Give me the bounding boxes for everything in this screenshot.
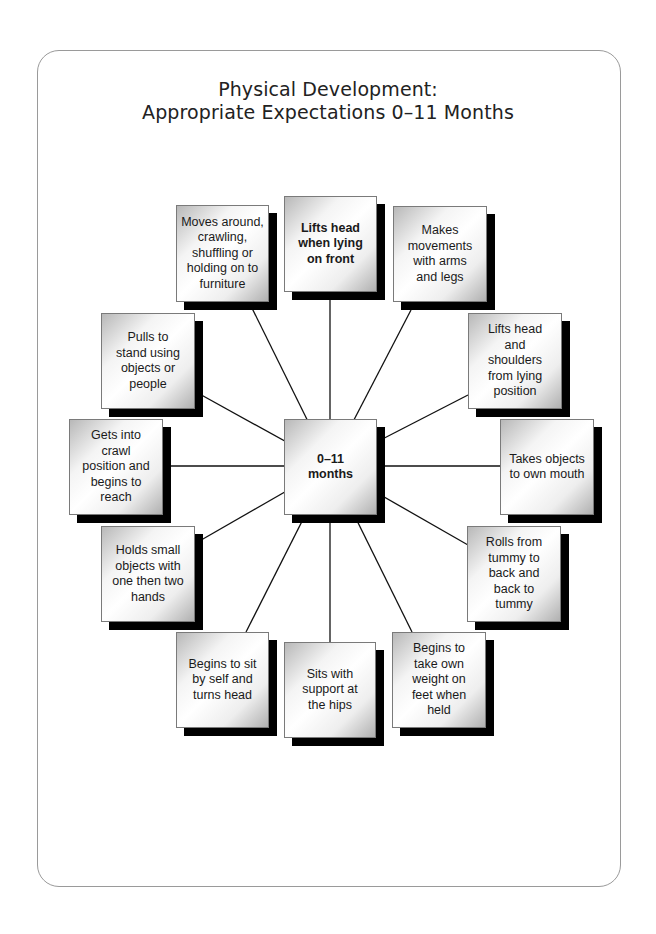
node-label: Gets into crawl position and begins to r… bbox=[79, 428, 153, 506]
node-moves-around: Moves around, crawling, shuffling or hol… bbox=[176, 205, 269, 302]
node-label: Pulls to stand using objects or people bbox=[111, 330, 185, 392]
node-rolls-tummy: Rolls from tummy to back and back to tum… bbox=[467, 526, 561, 622]
node-sit-by-self: Begins to sit by self and turns head bbox=[176, 632, 269, 728]
node-label: Moves around, crawling, shuffling or hol… bbox=[181, 215, 264, 293]
center-label: 0–11 months bbox=[301, 452, 361, 483]
node-lifts-head-front: Lifts head when lying on front bbox=[284, 196, 377, 292]
node-label: Takes objects to own mouth bbox=[507, 452, 587, 483]
node-lifts-head-shoulders: Lifts head and shoulders from lying posi… bbox=[468, 313, 562, 409]
node-label: Lifts head and shoulders from lying posi… bbox=[478, 322, 552, 400]
node-label: Begins to take own weight on feet when h… bbox=[403, 641, 475, 719]
node-makes-movements: Makes movements with arms and legs bbox=[393, 206, 487, 302]
node-label: Rolls from tummy to back and back to tum… bbox=[478, 535, 550, 613]
node-label: Lifts head when lying on front bbox=[289, 221, 372, 268]
node-label: Holds small objects with one then two ha… bbox=[109, 543, 187, 605]
node-label: Makes movements with arms and legs bbox=[404, 223, 476, 285]
node-label: Sits with support at the hips bbox=[294, 667, 366, 714]
node-takes-objects-mouth: Takes objects to own mouth bbox=[500, 419, 594, 515]
center-node: 0–11 months bbox=[284, 419, 377, 515]
node-pulls-to-stand: Pulls to stand using objects or people bbox=[101, 313, 195, 409]
node-sits-support: Sits with support at the hips bbox=[284, 642, 376, 738]
node-holds-objects: Holds small objects with one then two ha… bbox=[101, 526, 195, 622]
node-crawl-position: Gets into crawl position and begins to r… bbox=[69, 419, 163, 515]
node-label: Begins to sit by self and turns head bbox=[187, 657, 259, 704]
node-takes-weight: Begins to take own weight on feet when h… bbox=[392, 632, 486, 728]
